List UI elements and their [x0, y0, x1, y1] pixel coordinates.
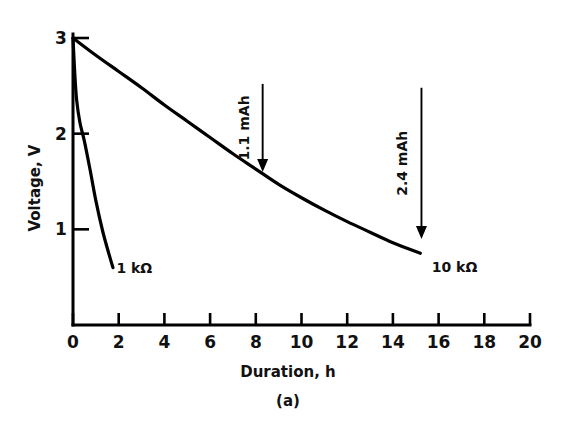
chart-canvas: 123 02468101214161820 1 kΩ10 kΩ 1.1 mAh2…: [0, 0, 575, 429]
x-tick-label: 18: [472, 332, 496, 352]
x-tick-label: 12: [335, 332, 359, 352]
x-tick-label: 4: [158, 332, 170, 352]
y-tick-label: 3: [55, 28, 67, 48]
x-axis-tick-labels: 02468101214161820: [67, 332, 542, 352]
x-tick-label: 0: [67, 332, 79, 352]
y-axis-tick-labels: 123: [55, 28, 67, 239]
figure-panel: 123 02468101214161820 1 kΩ10 kΩ 1.1 mAh2…: [0, 0, 575, 429]
x-axis-ticks: [73, 313, 530, 325]
x-tick-label: 2: [113, 332, 125, 352]
y-axis-title: Voltage, V: [26, 144, 44, 231]
annotation-label: 1.1 mAh: [236, 95, 252, 160]
axes-group: [73, 34, 530, 325]
annotation-arrow: 1.1 mAh: [236, 84, 269, 172]
annotations-group: 1.1 mAh2.4 mAh: [236, 84, 427, 239]
y-tick-label: 1: [55, 219, 67, 239]
x-tick-label: 8: [250, 332, 262, 352]
data-curve: [73, 38, 113, 268]
x-axis-title: Duration, h: [240, 363, 336, 381]
annotation-arrow: 2.4 mAh: [394, 88, 427, 239]
x-tick-label: 6: [204, 332, 216, 352]
x-tick-label: 20: [518, 332, 542, 352]
x-tick-label: 14: [381, 332, 405, 352]
figure-caption: (a): [276, 392, 300, 410]
curve-label: 10 kΩ: [432, 259, 478, 275]
curve-labels-group: 1 kΩ10 kΩ: [116, 259, 477, 276]
y-tick-label: 2: [55, 124, 67, 144]
arrow-head: [416, 226, 427, 239]
x-tick-label: 16: [427, 332, 451, 352]
x-tick-label: 10: [290, 332, 314, 352]
curve-label: 1 kΩ: [116, 260, 152, 276]
annotation-label: 2.4 mAh: [394, 131, 410, 196]
